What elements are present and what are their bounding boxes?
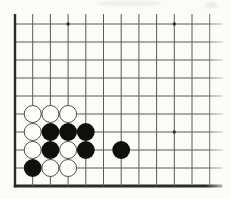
white-stone bbox=[24, 124, 41, 141]
black-stone bbox=[42, 141, 60, 159]
go-board-diagram bbox=[0, 0, 231, 199]
right-crop-fade bbox=[206, 0, 231, 199]
black-stone bbox=[77, 123, 95, 141]
black-stone bbox=[77, 141, 95, 159]
white-stone bbox=[60, 106, 77, 123]
white-stone bbox=[60, 160, 77, 177]
white-stone bbox=[42, 160, 59, 177]
black-stone bbox=[42, 123, 60, 141]
star-point bbox=[173, 130, 176, 133]
black-stone bbox=[112, 141, 130, 159]
black-stone bbox=[24, 159, 42, 177]
star-point bbox=[66, 22, 69, 25]
white-stone bbox=[24, 106, 41, 123]
star-point bbox=[173, 22, 176, 25]
black-stone bbox=[59, 123, 77, 141]
white-stone bbox=[60, 142, 77, 159]
top-crop-fade bbox=[0, 0, 231, 15]
white-stone bbox=[24, 142, 41, 159]
white-stone bbox=[42, 106, 59, 123]
scanned-go-diagram-page bbox=[0, 0, 231, 199]
